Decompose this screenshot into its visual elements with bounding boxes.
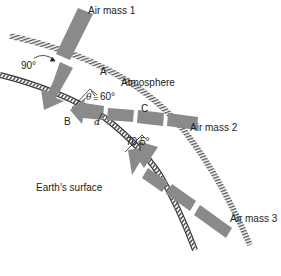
angle-90-label: 90° <box>21 61 36 71</box>
point-b-label: B <box>64 117 71 127</box>
earths-surface-label: Earth's surface <box>36 183 102 193</box>
atmosphere-label: Atmosphere <box>121 78 175 88</box>
alpha-label: α <box>94 118 100 127</box>
point-c-label: C <box>141 104 148 114</box>
air-mass-3-label: Air mass 3 <box>230 214 277 224</box>
angle-70-5-label: 70.5° <box>126 137 149 147</box>
point-a-label: A <box>100 67 107 77</box>
theta-label: θ <box>86 93 91 102</box>
air-mass-1-label: Air mass 1 <box>88 6 135 16</box>
air-mass-3-arrow <box>128 141 232 238</box>
theta-equals: = <box>93 93 99 103</box>
air-mass-diagram: Air mass 1 Air mass 2 Air mass 3 Atmosph… <box>0 0 281 276</box>
angle-60-label: 60° <box>100 92 115 102</box>
air-mass-2-label: Air mass 2 <box>190 123 237 133</box>
